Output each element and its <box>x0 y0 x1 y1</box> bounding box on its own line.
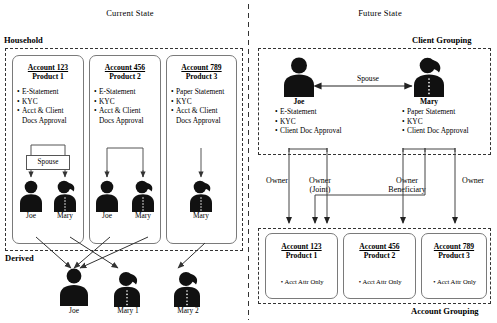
account-attribute-wrap: Docs Approval <box>17 116 83 126</box>
account-product: Product 3 <box>422 251 486 260</box>
client-attributes-mary: •Paper Statement •KYC •Client Doc Approv… <box>398 107 469 136</box>
account-id: Account 456 <box>90 63 160 72</box>
client-attribute: •Client Doc Approval <box>275 126 342 136</box>
account-id: Account 123 <box>13 63 83 72</box>
client-name: Joe <box>281 97 317 106</box>
account-product: Product 3 <box>167 72 236 81</box>
client-attribute: •KYC <box>402 117 469 127</box>
account-id: Account 789 <box>167 63 236 72</box>
account-attribute: •Acct Attr Only <box>344 278 415 285</box>
derived-person-name: Mary 2 <box>168 306 208 315</box>
account-id: Account 789 <box>422 242 486 251</box>
person-name: Mary <box>183 211 219 220</box>
future-account-card-3[interactable]: Account 789 Product 3 •Acct Attr Only <box>421 233 487 299</box>
account-id: Account 456 <box>344 242 415 251</box>
account-attribute: •Paper Statement <box>171 87 236 97</box>
person-name: Mary <box>125 211 161 220</box>
account-attribute: •Acct & Client <box>94 106 160 116</box>
client-attribute: •Client Doc Approval <box>402 126 469 136</box>
account-attribute: •E-Statement <box>94 87 160 97</box>
person-name: Joe <box>89 211 125 220</box>
account-attribute: •KYC <box>171 97 236 107</box>
diagram-canvas: Current State Household Account 123 Prod… <box>0 0 497 323</box>
current-state-title: Current State <box>60 8 200 18</box>
derived-label: Derived <box>5 253 34 263</box>
household-label: Household <box>4 35 43 45</box>
derived-person-name: Joe <box>56 306 92 315</box>
future-account-card-2[interactable]: Account 456 Product 2 •Acct Attr Only <box>343 233 416 299</box>
ownership-label-1: Owner <box>256 176 298 185</box>
account-grouping-label: Account Grouping <box>411 306 479 316</box>
spouse-relationship-label: Spouse <box>26 158 70 166</box>
account-attribute: •Acct Attr Only <box>422 278 486 285</box>
ownership-label-2: Owner (Joint) <box>296 176 344 194</box>
client-attribute: •KYC <box>275 117 342 127</box>
ownership-label-4: Owner <box>452 176 494 185</box>
derived-person-icon-mary-1 <box>112 271 142 311</box>
person-name: Joe <box>13 211 49 220</box>
ownership-label-3: Owner Beneficiary <box>376 176 438 194</box>
client-icon-joe <box>282 57 316 101</box>
future-account-card-1[interactable]: Account 123 Product 1 •Acct Attr Only <box>265 233 338 299</box>
account-product: Product 2 <box>344 251 415 260</box>
client-icon-mary <box>412 57 446 101</box>
account-attribute-wrap: Docs Approval <box>94 116 160 126</box>
account-product: Product 1 <box>266 251 337 260</box>
account-product: Product 1 <box>13 72 83 81</box>
derived-person-name: Mary 1 <box>108 306 148 315</box>
person-name: Mary <box>47 211 83 220</box>
account-attribute: •E-Statement <box>17 87 83 97</box>
account-attribute: •Acct & Client <box>171 106 236 116</box>
client-name: Mary <box>411 97 447 106</box>
derived-person-icon-joe <box>58 268 90 310</box>
client-attribute: •Paper Statement <box>402 107 469 117</box>
client-grouping-label: Client Grouping <box>412 35 472 45</box>
account-attribute: •Acct & Client <box>17 106 83 116</box>
client-attribute: •E-Statement <box>275 107 342 117</box>
client-attributes-joe: •E-Statement •KYC •Client Doc Approval <box>271 107 342 136</box>
account-attribute: •KYC <box>94 97 160 107</box>
derived-person-icon-mary-2 <box>172 271 202 311</box>
account-product: Product 2 <box>90 72 160 81</box>
spouse-edge-label: Spouse <box>342 74 394 83</box>
account-attribute: •KYC <box>17 97 83 107</box>
account-attribute: •Acct Attr Only <box>266 278 337 285</box>
future-state-title: Future State <box>320 8 440 18</box>
account-attribute-wrap: Docs Approval <box>171 116 236 126</box>
account-id: Account 123 <box>266 242 337 251</box>
